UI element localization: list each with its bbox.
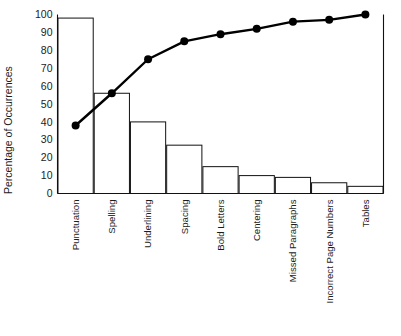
y-axis-tick-label: 50 bbox=[41, 98, 53, 110]
bar bbox=[312, 183, 347, 194]
y-axis-tick-label: 30 bbox=[41, 133, 53, 145]
cumulative-marker bbox=[217, 30, 225, 38]
y-axis-tick-label: 70 bbox=[41, 62, 53, 74]
bar bbox=[239, 176, 274, 194]
cumulative-marker bbox=[72, 121, 80, 129]
x-axis-category-label: Tables bbox=[360, 199, 371, 227]
cumulative-marker bbox=[253, 25, 261, 33]
cumulative-marker bbox=[180, 37, 188, 45]
y-axis-title-text: Percentage of Occurrences bbox=[2, 66, 14, 194]
y-axis-tick-label: 20 bbox=[41, 151, 53, 163]
pareto-chart: Percentage of Occurrences 01020304050607… bbox=[0, 0, 401, 336]
cumulative-marker bbox=[325, 16, 333, 24]
cumulative-marker bbox=[361, 11, 369, 19]
x-axis-category-label: Missed Paragraphs bbox=[287, 199, 298, 282]
y-axis-tick-label: 90 bbox=[41, 26, 53, 38]
x-axis-category-label: Bold Letters bbox=[215, 199, 226, 250]
x-axis-category-label: Punctuation bbox=[70, 200, 81, 251]
y-axis-tick-label: 80 bbox=[41, 44, 53, 56]
bar bbox=[58, 18, 93, 193]
y-axis-tick-label: 100 bbox=[35, 8, 53, 20]
bar bbox=[167, 145, 202, 193]
y-axis-tick-label: 0 bbox=[47, 187, 53, 199]
y-axis-tick-label: 60 bbox=[41, 80, 53, 92]
bar bbox=[348, 186, 383, 193]
bar bbox=[203, 167, 238, 194]
y-axis-tick-label: 10 bbox=[41, 169, 53, 181]
cumulative-marker bbox=[144, 55, 152, 63]
bar bbox=[94, 93, 129, 193]
x-axis-category-label: Spacing bbox=[179, 200, 190, 235]
y-axis-title: Percentage of Occurrences bbox=[2, 66, 14, 194]
cumulative-marker bbox=[289, 18, 297, 26]
bar bbox=[130, 122, 165, 194]
cumulative-marker bbox=[108, 89, 116, 97]
x-axis-category-label: Underlining bbox=[142, 200, 153, 249]
x-axis-category-label: Incorrect Page Numbers bbox=[324, 199, 335, 303]
x-axis-category-label: Spelling bbox=[106, 200, 117, 234]
pareto-chart-canvas: Percentage of Occurrences 01020304050607… bbox=[0, 0, 401, 336]
bar bbox=[275, 177, 310, 193]
x-axis-category-label: Centering bbox=[251, 200, 262, 242]
y-axis-tick-label: 40 bbox=[41, 116, 53, 128]
